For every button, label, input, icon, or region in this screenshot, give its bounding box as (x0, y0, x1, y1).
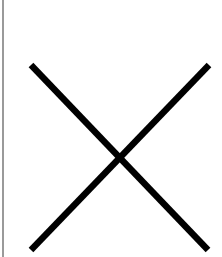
close-icon[interactable] (0, 0, 222, 257)
